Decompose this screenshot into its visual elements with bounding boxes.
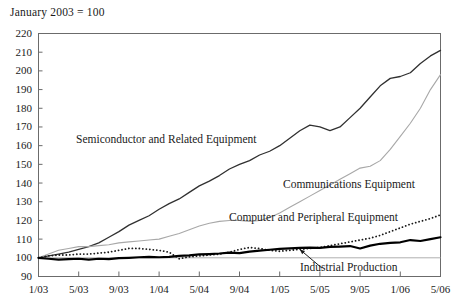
x-tick-label: 5/03 bbox=[56, 284, 102, 295]
y-tick-label: 150 bbox=[2, 159, 32, 170]
series-line-industrial bbox=[39, 237, 441, 259]
x-tick-label: 5/06 bbox=[418, 284, 457, 295]
series-label-industrial: Industrial Production bbox=[300, 261, 397, 273]
y-tick-label: 180 bbox=[2, 103, 32, 114]
y-tick-label: 140 bbox=[2, 178, 32, 189]
x-tick-label: 9/03 bbox=[96, 284, 142, 295]
plot-frame bbox=[39, 34, 441, 277]
series-label-semiconductor: Semiconductor and Related Equipment bbox=[76, 133, 256, 145]
chart-figure: January 2003 = 100 220210200190180170160… bbox=[0, 0, 457, 308]
y-axis-ticks bbox=[39, 52, 43, 258]
y-tick-label: 110 bbox=[2, 234, 32, 245]
series-line-communications bbox=[39, 75, 441, 258]
x-tick-label: 1/06 bbox=[377, 284, 423, 295]
x-tick-label: 1/03 bbox=[16, 284, 62, 295]
y-tick-label: 130 bbox=[2, 196, 32, 207]
y-tick-label: 190 bbox=[2, 84, 32, 95]
x-tick-label: 9/04 bbox=[217, 284, 263, 295]
series-label-computer: Computer and Peripheral Equipment bbox=[229, 211, 398, 223]
y-tick-label: 120 bbox=[2, 215, 32, 226]
y-tick-label: 170 bbox=[2, 121, 32, 132]
x-tick-label: 1/04 bbox=[136, 284, 182, 295]
y-tick-label: 210 bbox=[2, 47, 32, 58]
y-tick-label: 220 bbox=[2, 28, 32, 39]
series-label-communications: Communications Equipment bbox=[283, 178, 415, 190]
y-tick-label: 160 bbox=[2, 140, 32, 151]
x-tick-label: 9/05 bbox=[337, 284, 383, 295]
y-tick-label: 100 bbox=[2, 252, 32, 263]
x-tick-label: 5/05 bbox=[297, 284, 343, 295]
y-tick-label: 200 bbox=[2, 65, 32, 76]
series-lines bbox=[39, 50, 441, 259]
series-line-semiconductor bbox=[39, 50, 441, 257]
x-tick-label: 1/05 bbox=[257, 284, 303, 295]
y-tick-label: 90 bbox=[2, 271, 32, 282]
x-tick-label: 5/04 bbox=[176, 284, 222, 295]
